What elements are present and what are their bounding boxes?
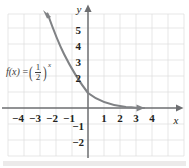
x-axis (2, 104, 184, 111)
ytick-label-4: 4 (76, 40, 82, 52)
ytick-label-neg2: −2 (72, 136, 84, 148)
function-equals: = (22, 66, 28, 77)
grid-lines (8, 14, 184, 156)
right-paren: ) (43, 64, 47, 81)
ytick-label-2: 2 (76, 72, 82, 84)
xtick-label-4: 4 (149, 112, 155, 124)
ytick-label-neg1: −1 (72, 120, 84, 132)
xtick-label-2: 2 (117, 112, 123, 124)
xtick-label-neg2: −2 (46, 112, 58, 124)
x-axis-label: x (173, 114, 179, 126)
base-fraction: 12 (35, 63, 42, 83)
bottom-band (3, 161, 186, 166)
ytick-label-5: 5 (76, 24, 82, 36)
exponent-x: x (48, 62, 51, 69)
coordinate-plane-svg: −4 −3 −2 −1 1 2 3 4 5 4 3 2 −1 −2 x y (0, 0, 189, 168)
y-axis (84, 5, 91, 159)
left-paren: ( (29, 64, 33, 81)
xtick-label-neg4: −4 (12, 112, 24, 124)
ytick-label-3: 3 (76, 56, 82, 68)
function-equation-label: f(x) =(12)x (6, 63, 51, 83)
xtick-label-1: 1 (101, 112, 107, 124)
function-curve (43, 10, 145, 111)
fraction-numerator: 1 (35, 63, 42, 72)
exponential-decay-graph-figure: −4 −3 −2 −1 1 2 3 4 5 4 3 2 −1 −2 x y f(… (0, 0, 189, 168)
xtick-label-neg3: −3 (29, 112, 41, 124)
y-axis-label: y (76, 3, 82, 15)
xtick-label-3: 3 (133, 112, 139, 124)
fraction-denominator: 2 (35, 72, 42, 82)
function-lhs: f(x) (6, 66, 20, 77)
